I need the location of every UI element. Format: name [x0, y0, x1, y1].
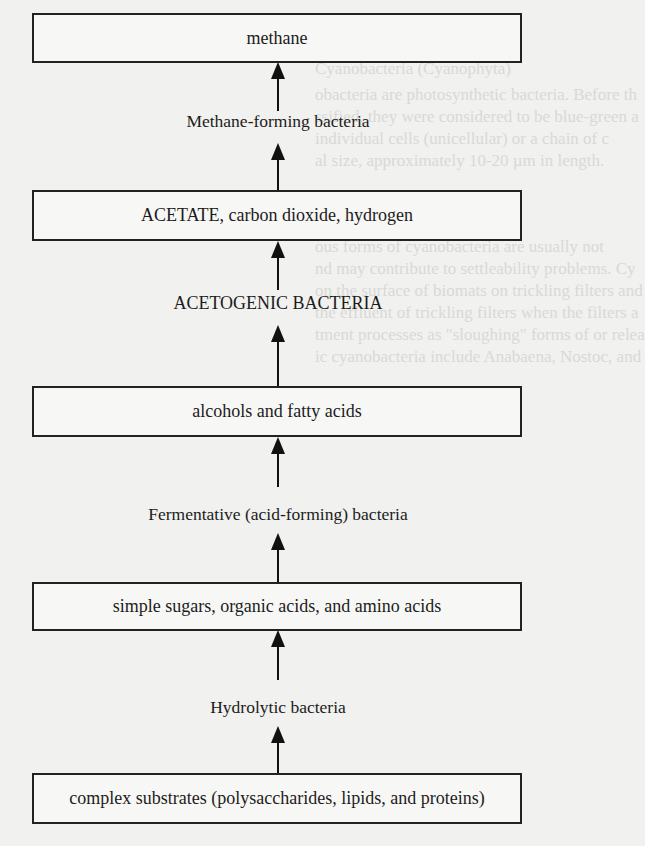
- bleed-through-line: nd may contribute to settleability probl…: [315, 258, 636, 280]
- agent-acetogenic: ACETOGENIC BACTERIA: [32, 293, 524, 313]
- box-alcohols-label: alcohols and fatty acids: [192, 401, 361, 422]
- bleed-through-line: al size, approximately 10-20 µm in lengt…: [315, 150, 604, 172]
- box-simple-sugars: simple sugars, organic acids, and amino …: [32, 582, 522, 631]
- box-complex-substrates-label: complex substrates (polysaccharides, lip…: [69, 788, 484, 809]
- arrow-up-icon: [271, 726, 285, 774]
- arrow-up-icon: [271, 143, 285, 191]
- box-methane-label: methane: [247, 28, 308, 49]
- arrow-up-icon: [271, 241, 285, 290]
- bleed-through-line: individual cells (unicellular) or a chai…: [315, 128, 609, 150]
- agent-fermentative: Fermentative (acid-forming) bacteria: [32, 504, 524, 524]
- box-alcohols: alcohols and fatty acids: [32, 386, 522, 437]
- arrow-up-icon: [271, 325, 285, 387]
- arrow-up-icon: [271, 533, 285, 583]
- agent-methane-forming: Methane-forming bacteria: [32, 111, 524, 131]
- box-complex-substrates: complex substrates (polysaccharides, lip…: [32, 773, 522, 824]
- arrow-up-icon: [271, 437, 285, 487]
- agent-hydrolytic: Hydrolytic bacteria: [32, 697, 524, 717]
- box-acetate: ACETATE, carbon dioxide, hydrogen: [32, 190, 522, 241]
- box-acetate-label: ACETATE, carbon dioxide, hydrogen: [141, 205, 413, 226]
- bleed-through-line: tment processes as "sloughing" forms of …: [315, 324, 645, 346]
- bleed-through-line: obacteria are photosynthetic bacteria. B…: [315, 84, 637, 106]
- bleed-through-line: ic cyanobacteria include Anabaena, Nosto…: [315, 346, 641, 368]
- arrow-up-icon: [271, 62, 285, 111]
- box-simple-sugars-label: simple sugars, organic acids, and amino …: [113, 596, 442, 617]
- box-methane: methane: [32, 13, 522, 63]
- arrow-up-icon: [271, 630, 285, 680]
